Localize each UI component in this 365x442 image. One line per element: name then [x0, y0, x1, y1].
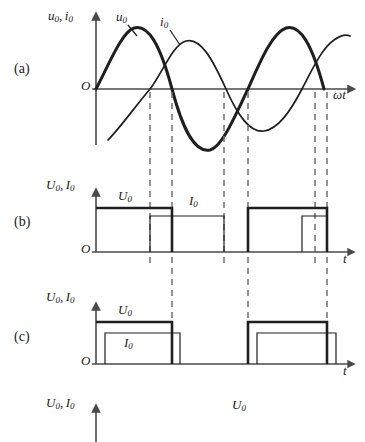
panel-tag-c: (c): [14, 330, 30, 344]
panel-b-wave-u0: [96, 208, 172, 252]
panel-c-curve-label-i0: I0: [124, 336, 133, 351]
leader-line-i0: [170, 30, 180, 45]
panel-c-curve-label-u0: U0: [118, 303, 132, 318]
panel-b-origin-label: O: [81, 242, 90, 255]
panel-c-wave-i0: [257, 333, 336, 364]
panel-tag-a: (a): [14, 62, 30, 76]
panel-tag-b: (b): [14, 215, 30, 229]
panel-a-y-axis-label: u0, i0: [48, 9, 73, 24]
panel-c-x-axis-label: t: [343, 364, 347, 377]
waveform-figure: (a) (b) (c) u0, i0 O ωt u0 i0 U0, I0 O t…: [0, 0, 365, 442]
figure-canvas: [0, 0, 365, 442]
panel-c-origin-label: O: [81, 354, 90, 367]
curve-i0: [108, 35, 350, 140]
panel-d-y-axis-label: U0, I0: [46, 396, 75, 411]
panel-c-wave-u0: [96, 322, 172, 364]
panel-b-x-axis-label: t: [343, 252, 347, 265]
panel-b-wave-i0: [150, 216, 224, 252]
panel-b-curve-label-u0: U0: [118, 189, 132, 204]
panel-d-curve-label-u0: U0: [232, 398, 246, 413]
panel-b-y-axis-label: U0, I0: [46, 178, 75, 193]
panel-b-curve-label-i0: I0: [189, 194, 198, 209]
curve-label-u0: u0: [116, 10, 127, 25]
panel-b-graphics: [92, 196, 348, 252]
dashed-marker-group-ab: [150, 92, 327, 268]
curve-label-i0: i0: [160, 15, 168, 30]
panel-a-graphics: [92, 20, 350, 150]
dashed-marker-group-bc: [172, 268, 327, 322]
panel-c-wave-i0: [105, 333, 180, 364]
panel-a-origin-label: O: [81, 79, 90, 92]
panel-c-wave-u0: [248, 322, 327, 364]
panel-a-x-axis-label: ωt: [333, 88, 346, 101]
panel-c-y-axis-label: U0, I0: [46, 290, 75, 305]
